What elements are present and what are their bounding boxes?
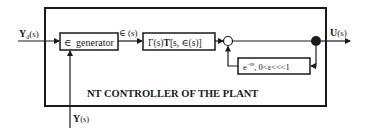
reference-input-label: Yd(s)	[19, 28, 39, 40]
diagram-title: NT CONTROLLER OF THE PLANT	[87, 88, 258, 99]
output-label: U(s)	[330, 27, 347, 38]
feedback-branch-line	[311, 46, 316, 66]
feedback-return-line	[228, 47, 238, 67]
epsilon-generator-symbol: ∈	[64, 37, 71, 48]
epsilon-generator-label: generator	[76, 37, 114, 48]
measured-output-label: Y(s)	[73, 113, 89, 124]
summing-junction	[224, 37, 233, 46]
nt-controller-diagram: Yd(s) ∈ generator ∈ (s) Γ(s)T[s, ∈(s)] U…	[0, 0, 367, 134]
epsilon-signal-label: ∈ (s)	[119, 28, 137, 38]
branch-node	[311, 36, 321, 46]
controller-transfer-label: Γ(s)T[s, ∈(s)]	[148, 38, 202, 49]
